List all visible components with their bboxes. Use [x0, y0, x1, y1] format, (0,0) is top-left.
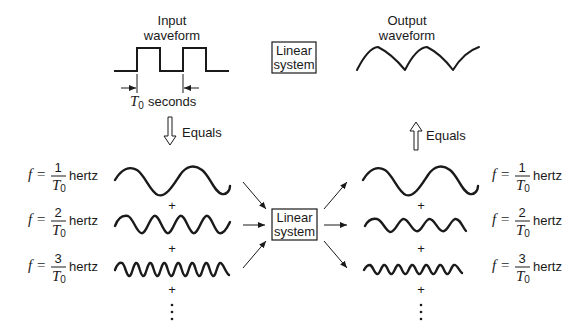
svg-text:Linear: Linear	[276, 210, 313, 225]
input-title-line1: Input	[158, 13, 187, 28]
svg-text:f =: f =	[28, 166, 46, 182]
hollow-up-arrow-icon	[410, 122, 422, 150]
ellipsis-left-icon	[171, 304, 174, 321]
left-sinusoids: + + +	[115, 167, 230, 321]
sine-wave-f2-icon	[115, 216, 230, 233]
right-harmonic-labels: f = 1 T0 hertz f = 2 T0 hertz f = 3 T0 h…	[492, 160, 562, 285]
svg-text:T0: T0	[52, 222, 66, 239]
linear-system-middle: Linear system	[243, 182, 347, 268]
left-label-f1: f = 1 T0 hertz	[28, 160, 98, 194]
svg-text:f =: f =	[28, 211, 46, 227]
svg-text:hertz: hertz	[533, 213, 562, 228]
output-title-line1: Output	[387, 13, 426, 28]
output-sine-wave-f3-icon	[364, 265, 462, 274]
plus-sign: +	[168, 282, 176, 297]
svg-text:Equals: Equals	[182, 125, 222, 140]
svg-text:hertz: hertz	[533, 259, 562, 274]
plus-sign: +	[168, 241, 176, 256]
svg-text:hertz: hertz	[69, 213, 98, 228]
fourier-linear-system-diagram: Input waveform T0seconds Linear system O…	[0, 0, 581, 336]
input-waveform-group: Input waveform T0seconds	[114, 13, 229, 111]
svg-text:f =: f =	[492, 257, 510, 273]
input-title-line2: waveform	[143, 28, 200, 43]
input-arrow-f1-icon	[243, 182, 266, 209]
distorted-output-wave-icon	[357, 47, 479, 70]
equals-up-arrow: Equals	[410, 122, 466, 150]
right-label-f3: f = 3 T0 hertz	[492, 251, 562, 285]
ellipsis-right-icon	[420, 304, 423, 321]
svg-text:1: 1	[54, 160, 61, 175]
plus-sign: +	[417, 241, 425, 256]
right-sinusoids: + + +	[363, 167, 478, 321]
svg-text:hertz: hertz	[533, 168, 562, 183]
output-waveform-group: Output waveform	[357, 13, 479, 70]
plus-sign: +	[417, 198, 425, 213]
svg-text:f =: f =	[492, 211, 510, 227]
svg-text:system: system	[274, 224, 315, 239]
plus-sign: +	[168, 198, 176, 213]
linear-system-top: Linear system	[272, 42, 316, 73]
left-label-f2: f = 2 T0 hertz	[28, 205, 98, 239]
svg-text:system: system	[273, 57, 314, 72]
svg-text:2: 2	[54, 205, 61, 220]
svg-text:T0: T0	[516, 268, 530, 285]
svg-text:Equals: Equals	[426, 128, 466, 143]
output-title-line2: waveform	[378, 28, 435, 43]
output-arrow-f3-icon	[324, 241, 347, 268]
input-arrow-f3-icon	[243, 241, 266, 268]
sine-wave-f1-icon	[115, 167, 230, 196]
left-harmonic-labels: f = 1 T0 hertz f = 2 T0 hertz f = 3 T0 h…	[28, 160, 98, 285]
svg-text:T0: T0	[52, 177, 66, 194]
square-wave-icon	[114, 48, 229, 71]
svg-text:hertz: hertz	[69, 168, 98, 183]
svg-text:T0: T0	[516, 222, 530, 239]
output-arrow-f1-icon	[324, 182, 347, 209]
svg-text:1: 1	[518, 160, 525, 175]
hollow-down-arrow-icon	[164, 117, 176, 145]
svg-text:T0: T0	[52, 268, 66, 285]
sine-wave-f3-icon	[115, 263, 229, 276]
svg-text:f =: f =	[28, 257, 46, 273]
output-sine-wave-f2-icon	[365, 219, 466, 232]
svg-text:3: 3	[518, 251, 525, 266]
svg-text:3: 3	[54, 251, 61, 266]
equals-down-arrow: Equals	[164, 117, 222, 145]
svg-text:f =: f =	[492, 166, 510, 182]
svg-text:hertz: hertz	[69, 259, 98, 274]
svg-text:2: 2	[518, 205, 525, 220]
plus-sign: +	[417, 282, 425, 297]
output-sine-wave-f1-icon	[363, 167, 478, 196]
right-label-f1: f = 1 T0 hertz	[492, 160, 562, 194]
period-label: T0seconds	[130, 93, 197, 111]
svg-text:T0: T0	[516, 177, 530, 194]
svg-text:Linear: Linear	[276, 43, 313, 58]
left-label-f3: f = 3 T0 hertz	[28, 251, 98, 285]
right-label-f2: f = 2 T0 hertz	[492, 205, 562, 239]
